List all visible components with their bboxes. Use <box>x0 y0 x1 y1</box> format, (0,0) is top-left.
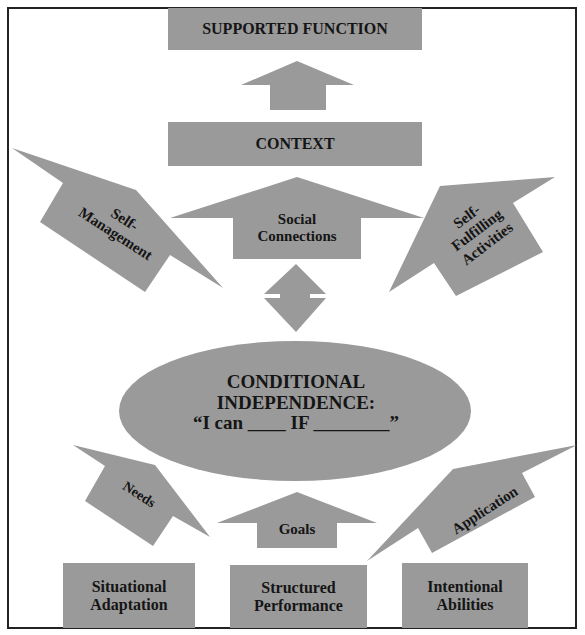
structured-line1: Structured <box>261 579 335 597</box>
conditional-independence-label: CONDITIONAL INDEPENDENCE: “I can ____ IF… <box>120 372 472 434</box>
social-connections-line2: Connections <box>233 228 361 245</box>
situational-line1: Situational <box>92 578 167 596</box>
center-line1: CONDITIONAL <box>120 372 472 393</box>
intentional-line1: Intentional <box>427 578 503 596</box>
structured-performance-label: Structured Performance <box>230 565 367 628</box>
goals-arrow <box>217 492 377 548</box>
intentional-line2: Abilities <box>437 596 494 614</box>
double-arrow-icon <box>264 264 326 332</box>
situational-adaptation-label: Situational Adaptation <box>63 563 195 628</box>
structured-line2: Performance <box>254 597 343 615</box>
center-line3: “I can ____ IF ________” <box>120 413 472 434</box>
supported-function-label: SUPPORTED FUNCTION <box>168 8 422 50</box>
diagram-canvas <box>0 0 585 635</box>
context-label: CONTEXT <box>168 122 422 166</box>
goals-label: Goals <box>257 521 337 538</box>
intentional-abilities-label: Intentional Abilities <box>402 563 528 628</box>
social-connections-line1: Social <box>233 211 361 228</box>
center-line2: INDEPENDENCE: <box>120 393 472 414</box>
up-arrow-icon <box>241 61 354 110</box>
situational-line2: Adaptation <box>90 596 167 614</box>
social-connections-label: Social Connections <box>233 211 361 245</box>
